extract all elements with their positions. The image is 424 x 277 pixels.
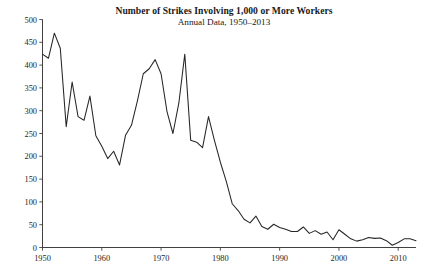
y-tick-label: 300 — [24, 107, 37, 116]
y-tick-label: 350 — [24, 84, 37, 93]
y-tick-label: 500 — [24, 16, 37, 25]
x-tick-label: 1980 — [212, 254, 229, 263]
y-axis-ticks: 050100150200250300350400450500 — [24, 16, 42, 253]
x-tick-label: 2000 — [331, 254, 348, 263]
chart-figure: Number of Strikes Involving 1,000 or Mor… — [0, 0, 424, 277]
y-tick-label: 450 — [24, 38, 37, 47]
data-series-line — [43, 33, 417, 245]
y-tick-label: 250 — [24, 130, 37, 139]
y-tick-label: 50 — [29, 221, 37, 230]
x-tick-label: 2010 — [390, 254, 407, 263]
y-tick-label: 150 — [24, 175, 37, 184]
line-chart-plot: 050100150200250300350400450500 195019601… — [0, 0, 424, 277]
x-tick-label: 1990 — [271, 254, 288, 263]
y-tick-label: 400 — [24, 61, 37, 70]
y-tick-label: 200 — [24, 152, 37, 161]
y-tick-label: 0 — [33, 244, 37, 253]
x-tick-label: 1960 — [93, 254, 110, 263]
x-tick-label: 1970 — [153, 254, 170, 263]
y-tick-label: 100 — [24, 198, 37, 207]
x-tick-label: 1950 — [34, 254, 51, 263]
x-axis-ticks: 1950196019701980199020002010 — [34, 248, 406, 263]
